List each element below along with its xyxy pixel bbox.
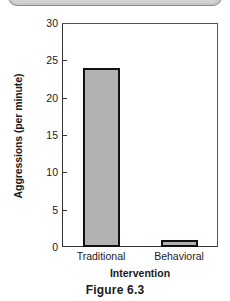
figure-caption: Figure 6.3	[0, 283, 230, 297]
partial-rounded-panel	[8, 0, 222, 6]
bar	[83, 68, 120, 247]
y-axis-tick-mark	[62, 172, 67, 173]
y-axis-tick-mark	[62, 60, 67, 61]
y-axis-tick-label: 0	[32, 242, 58, 252]
y-axis-tick-label: 5	[32, 205, 58, 215]
figure-container: Aggressions (per minute) 051015202530 Tr…	[0, 0, 230, 301]
x-axis-tick-label: Behavioral	[134, 250, 224, 262]
y-axis-tick-label: 20	[32, 93, 58, 103]
x-axis-title: Intervention	[62, 267, 218, 279]
x-axis-tick-label: Traditional	[56, 250, 146, 262]
y-axis-title: Aggressions (per minute)	[12, 41, 24, 231]
y-axis-tick-mark	[62, 98, 67, 99]
y-axis-tick-label: 15	[32, 130, 58, 140]
y-axis-tick-mark	[62, 135, 67, 136]
bar	[161, 240, 198, 247]
partial-rounded-panel-inner	[11, 0, 219, 3]
y-axis-tick-mark	[62, 210, 67, 211]
y-axis-tick-label: 25	[32, 55, 58, 65]
y-axis-tick-label: 10	[32, 167, 58, 177]
y-axis-tick-label: 30	[32, 18, 58, 28]
